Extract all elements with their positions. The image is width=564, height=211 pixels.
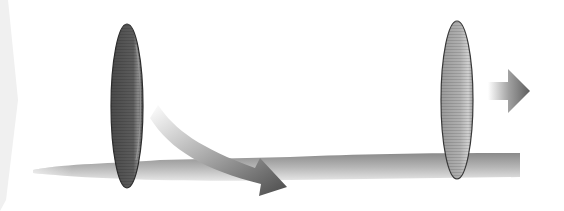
straight-arrow-icon	[488, 69, 530, 113]
diagram-canvas	[0, 0, 564, 211]
lens-left	[111, 24, 143, 188]
left-chevron-shape	[0, 0, 18, 211]
curved-arrow-icon	[150, 105, 287, 196]
lens-right	[441, 21, 473, 179]
